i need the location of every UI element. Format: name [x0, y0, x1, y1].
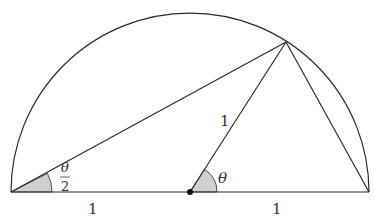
radius-line: [190, 42, 286, 192]
inscribed-angle-numerator: θ: [61, 160, 69, 175]
chord-left: [11, 42, 286, 192]
right-base-label: 1: [272, 200, 282, 218]
central-angle-wedge: [190, 169, 217, 192]
inscribed-angle-denominator: 2: [61, 179, 69, 194]
chord-right: [286, 42, 369, 192]
center-point: [187, 189, 193, 195]
semicircle-diagram: 1 1 1 θ θ 2: [0, 0, 374, 221]
left-base-label: 1: [88, 200, 98, 218]
central-angle-label: θ: [218, 169, 227, 187]
radius-label: 1: [220, 112, 230, 130]
